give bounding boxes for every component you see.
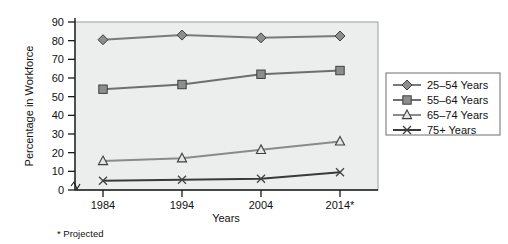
legend-entry-1[interactable]: 25–54 Years [393,79,489,91]
x-tick-label-0: 1984 [91,199,115,211]
y-tick-label-0: 0 [58,184,64,196]
x-axis-title: Years [212,212,240,224]
x-tick-label-3: 2014* [326,199,355,211]
y-tick-label-80: 80 [52,35,64,47]
y-tick-label-90: 90 [52,16,64,28]
workforce-participation-line-chart: 0102030405060708090 1984199420042014* Pe… [0,0,508,244]
y-axis-tick-marks [68,22,75,190]
chart-legend: 25–54 Years55–64 Years65–74 Years75+ Yea… [386,73,500,136]
legend-marker-square-icon [403,96,411,104]
x-axis-tick-marks [103,190,340,197]
y-axis-tick-labels: 0102030405060708090 [52,16,64,196]
footnote-projected: * Projected [57,228,103,239]
y-tick-label-30: 30 [52,128,64,140]
y-tick-label-10: 10 [52,165,64,177]
data-point-2-3 [336,66,344,74]
y-tick-label-50: 50 [52,91,64,103]
data-point-2-0 [99,85,107,93]
legend-label-3: 65–74 Years [427,109,489,121]
legend-entry-2[interactable]: 55–64 Years [393,94,489,106]
y-tick-label-40: 40 [52,109,64,121]
data-point-2-2 [257,70,265,78]
x-tick-label-1: 1994 [170,199,194,211]
chart-container: 0102030405060708090 1984199420042014* Pe… [0,0,508,244]
data-point-2-1 [178,80,186,88]
y-tick-label-70: 70 [52,53,64,65]
legend-label-1: 25–54 Years [427,79,489,91]
legend-label-2: 55–64 Years [427,94,489,106]
x-axis-tick-labels: 1984199420042014* [91,199,355,211]
plot-area-background [75,22,378,190]
x-tick-label-2: 2004 [249,199,273,211]
y-tick-label-20: 20 [52,147,64,159]
y-tick-label-60: 60 [52,72,64,84]
legend-label-4: 75+ Years [427,124,477,136]
y-axis-title: Percentage in Workforce [23,46,35,167]
